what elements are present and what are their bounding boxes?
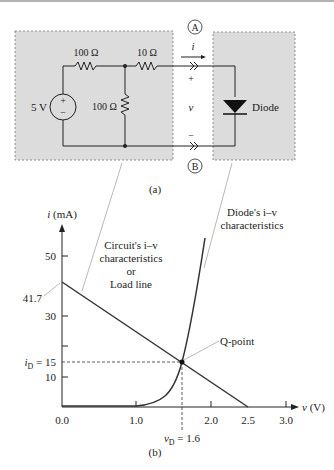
x-axis-arrow-icon <box>291 404 299 410</box>
current-label: i <box>191 40 194 52</box>
x-tick-1: 1.0 <box>129 414 143 426</box>
y-axis-label: i (mA) <box>47 208 77 221</box>
q-point-label: Q-point <box>220 335 254 347</box>
source-minus: − <box>60 107 66 118</box>
source-label: 5 V <box>31 101 47 113</box>
diode-curve-label-2: characteristics <box>221 219 284 231</box>
load-line-label-4: Load line <box>110 278 152 290</box>
caption-b: (b) <box>149 446 162 459</box>
load-line-label-3: or <box>126 265 136 277</box>
plus-sign: + <box>188 73 194 84</box>
x-tick-2-5: 2.5 <box>241 414 255 426</box>
diode-box <box>213 32 295 160</box>
r3-label: 100 Ω <box>92 101 117 112</box>
id-label: iD = 15 <box>24 356 56 371</box>
junction-dot <box>123 64 127 68</box>
r1-label: 100 Ω <box>74 47 99 58</box>
diode-curve-label-1: Diode's i–v <box>227 206 277 218</box>
minus-sign: − <box>188 130 194 141</box>
y-axis-arrow-icon <box>59 224 65 232</box>
y-tick-10: 10 <box>45 371 57 383</box>
source-plus: + <box>60 95 66 106</box>
figure: + − 5 V 100 Ω 10 Ω 100 Ω Diode A B i + v… <box>0 0 334 470</box>
q-point-marker <box>180 360 185 365</box>
vd-label: vD = 1.6 <box>164 432 201 447</box>
intercept-label: 41.7 <box>23 292 43 304</box>
x-tick-3: 3.0 <box>279 414 293 426</box>
load-line-label-1: Circuit's i–v <box>104 239 158 251</box>
y-tick-50: 50 <box>45 250 57 262</box>
leader-line-circuit <box>82 163 122 291</box>
junction-dot <box>123 144 127 148</box>
r2-label: 10 Ω <box>137 47 157 58</box>
load-line-label-2: characteristics <box>100 252 163 264</box>
x-axis-label: v (V) <box>302 401 325 414</box>
iv-graph: 50 30 10 0.0 1.0 2.0 2.5 3.0 i (mA) v (V… <box>23 206 325 459</box>
x-tick-2: 2.0 <box>204 414 218 426</box>
terminal-b-label: B <box>192 161 199 172</box>
diode-label: Diode <box>252 101 279 113</box>
terminal-a-label: A <box>191 22 199 33</box>
y-tick-30: 30 <box>45 310 57 322</box>
x-tick-0: 0.0 <box>55 414 69 426</box>
caption-a: (a) <box>149 183 162 196</box>
circuit-diagram: + − 5 V 100 Ω 10 Ω 100 Ω Diode A B i + v… <box>15 20 295 196</box>
voltage-label: v <box>189 101 194 113</box>
